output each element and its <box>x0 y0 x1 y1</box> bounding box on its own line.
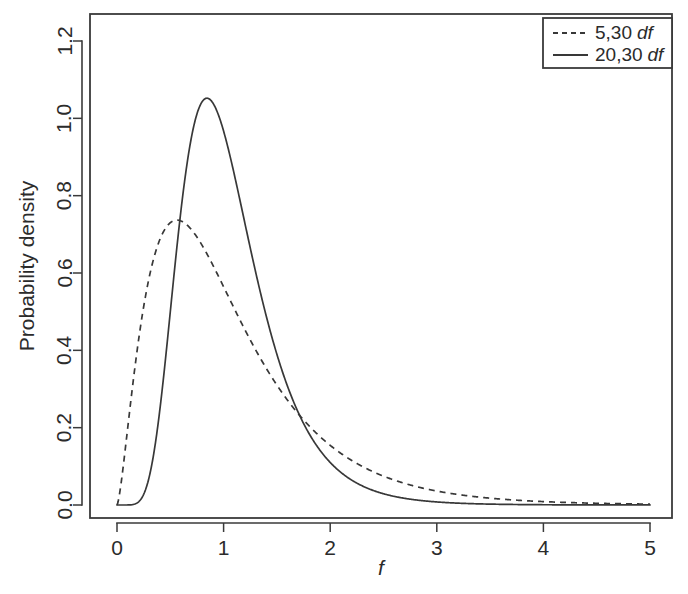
x-tick-label-5: 5 <box>644 536 656 559</box>
chart-figure: 012345 0.00.20.40.60.81.01.2 f Probabili… <box>0 0 688 594</box>
y-tick-label-1: 0.2 <box>53 413 76 442</box>
legend-label-0: 5,30df <box>595 22 655 43</box>
y-axis-title: Probability density <box>15 180 38 351</box>
legend-label-numbers-1: 20,30 <box>595 44 643 65</box>
y-tick-label-4: 0.8 <box>53 181 76 210</box>
legend-label-numbers-0: 5,30 <box>595 22 632 43</box>
chart-canvas: 012345 0.00.20.40.60.81.01.2 f Probabili… <box>0 0 688 594</box>
y-tick-label-5: 1.0 <box>53 104 76 133</box>
legend-label-1: 20,30df <box>595 44 665 65</box>
y-tick-label-3: 0.6 <box>53 258 76 287</box>
legend-label-suffix-0: df <box>637 22 655 43</box>
x-tick-label-0: 0 <box>111 536 123 559</box>
legend: 5,30df20,30df <box>543 18 672 68</box>
legend-label-suffix-1: df <box>648 44 666 65</box>
x-tick-label-1: 1 <box>218 536 230 559</box>
x-tick-label-2: 2 <box>324 536 336 559</box>
x-tick-label-3: 3 <box>431 536 443 559</box>
y-tick-label-2: 0.4 <box>53 335 76 365</box>
y-tick-label-6: 1.2 <box>53 26 76 55</box>
y-tick-label-0: 0.0 <box>53 490 76 519</box>
x-tick-label-4: 4 <box>538 536 550 559</box>
